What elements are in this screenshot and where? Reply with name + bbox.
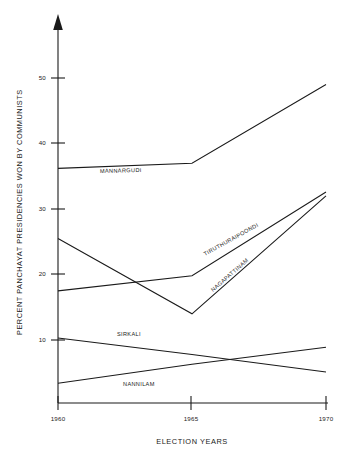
- series-line-mannargudi: [58, 85, 326, 169]
- y-tick-label-50: 50: [39, 74, 47, 81]
- series-line-tiruthuraipoondi: [58, 192, 326, 291]
- series-lines: [58, 85, 326, 384]
- series-line-sirkali: [58, 338, 326, 372]
- year-axis: [58, 396, 328, 410]
- y-axis-title: PERCENT PANCHAYAT PRESIDENCIES WON BY CO…: [15, 89, 24, 335]
- y-tick-label-40: 40: [39, 139, 47, 146]
- series-label-nannilam: NANNILAM: [123, 381, 155, 387]
- x-tick-label-1970: 1970: [319, 415, 334, 422]
- x-axis-title: ELECTION YEARS: [156, 437, 228, 446]
- x-tick-label-1965: 1965: [184, 415, 199, 422]
- y-tick-labels: 10 20 30 40 50: [39, 74, 47, 343]
- series-line-nannilam: [58, 347, 326, 383]
- x-tick-labels: 1960 1965 1970: [51, 415, 334, 422]
- y-tick-label-20: 20: [39, 270, 47, 277]
- line-chart: 10 20 30 40 50 1960 1965 1970 MANNARGUDI…: [0, 0, 344, 452]
- chart-plot-area: 10 20 30 40 50 1960 1965 1970 MANNARGUDI…: [0, 0, 344, 452]
- series-label-mannargudi: MANNARGUDI: [100, 167, 142, 174]
- series-label-nagapattinam: NAGAPATTINAM: [210, 257, 250, 293]
- y-tick-label-10: 10: [39, 336, 47, 343]
- up-arrow-icon: [53, 14, 63, 30]
- x-tick-label-1960: 1960: [51, 415, 66, 422]
- y-tick-label-30: 30: [39, 205, 47, 212]
- series-label-sirkali: SIRKALI: [117, 331, 141, 337]
- series-line-nagapattinam: [58, 196, 326, 314]
